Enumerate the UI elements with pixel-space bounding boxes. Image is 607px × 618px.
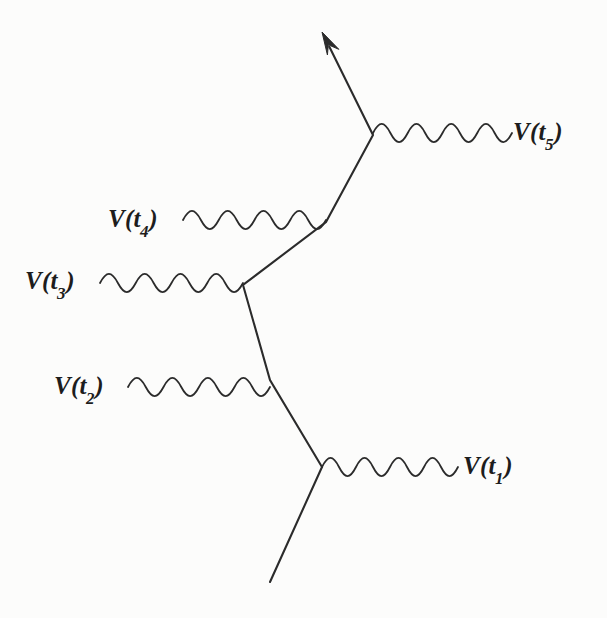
photon-line-w5 <box>373 124 512 142</box>
label-symbol-V: V <box>108 205 125 232</box>
photon-label-t1: V(t1) <box>463 453 513 483</box>
label-subscript: 3 <box>57 284 66 303</box>
label-paren-close: ) <box>149 205 158 232</box>
photon-line-w1 <box>322 458 458 476</box>
feynman-diagram-svg <box>0 0 607 618</box>
photon-line-w2 <box>128 378 270 396</box>
photon-lines-group <box>100 124 512 476</box>
fermion-line <box>243 47 373 582</box>
label-subscript: 4 <box>140 222 149 241</box>
label-subscript: 5 <box>545 135 554 154</box>
figure-canvas: V(t5) V(t4) V(t3) V(t2) V(t1) <box>0 0 607 618</box>
arrow-head-icon <box>322 32 339 55</box>
label-subscript: 1 <box>495 469 504 488</box>
label-paren-close: ) <box>554 118 563 145</box>
photon-line-w4 <box>183 211 326 229</box>
photon-label-t2: V(t2) <box>54 373 104 403</box>
fermion-line-group <box>243 32 373 582</box>
label-symbol-V: V <box>54 372 71 399</box>
photon-label-t4: V(t4) <box>108 206 158 236</box>
label-symbol-V: V <box>513 118 530 145</box>
label-paren-close: ) <box>504 452 513 479</box>
label-subscript: 2 <box>86 389 95 408</box>
label-symbol-V: V <box>25 267 42 294</box>
label-symbol-V: V <box>463 452 480 479</box>
photon-label-t3: V(t3) <box>25 268 75 298</box>
photon-line-w3 <box>100 274 243 292</box>
photon-label-t5: V(t5) <box>513 119 563 149</box>
label-paren-close: ) <box>95 372 104 399</box>
label-paren-close: ) <box>66 267 75 294</box>
